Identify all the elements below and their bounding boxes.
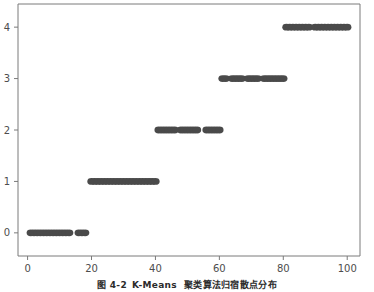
series-cluster-3 xyxy=(218,75,287,82)
y-tick-label: 1 xyxy=(4,176,10,187)
x-tick-label: 100 xyxy=(338,263,357,274)
caption-algorithm: K-Means xyxy=(132,280,177,290)
x-tick-label: 0 xyxy=(24,263,30,274)
data-point xyxy=(65,229,73,236)
data-point xyxy=(343,24,351,31)
x-tick-label: 60 xyxy=(213,263,226,274)
data-point xyxy=(151,178,159,185)
data-point xyxy=(193,127,201,134)
y-tick-label: 3 xyxy=(4,73,10,84)
data-point xyxy=(215,127,223,134)
series-cluster-2 xyxy=(154,127,223,134)
x-tick-label: 40 xyxy=(149,263,162,274)
y-tick-label: 0 xyxy=(4,227,10,238)
scatter-plot: 020406080100 01234 xyxy=(0,0,374,292)
series-cluster-0 xyxy=(27,229,90,236)
data-point xyxy=(279,75,287,82)
caption-number: 图 4-2 xyxy=(97,280,127,290)
y-tick-label: 4 xyxy=(4,22,10,33)
data-point xyxy=(81,229,89,236)
x-tick-label: 80 xyxy=(277,263,290,274)
y-tick-label: 2 xyxy=(4,125,10,136)
series-cluster-1 xyxy=(87,178,159,185)
series-cluster-4 xyxy=(282,24,351,31)
figure-caption: 图 4-2K-Means聚类算法归宿散点分布 xyxy=(0,279,374,292)
figure-container: 020406080100 01234 图 4-2K-Means聚类算法归宿散点分… xyxy=(0,0,374,292)
x-tick-label: 20 xyxy=(85,263,98,274)
caption-description: 聚类算法归宿散点分布 xyxy=(184,280,277,290)
